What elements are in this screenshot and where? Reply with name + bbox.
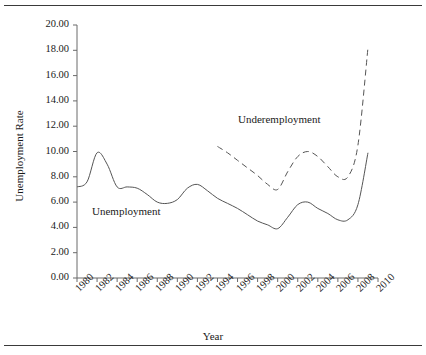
x-axis-title: Year (0, 330, 426, 342)
y-tick-label: 16.00 (25, 69, 69, 80)
y-tick-label: 0.00 (25, 271, 69, 282)
y-tick-label: 2.00 (25, 246, 69, 257)
figure-container: 0.002.004.006.008.0010.0012.0014.0016.00… (0, 0, 426, 355)
series-label-underemployment: Underemployment (238, 113, 320, 125)
y-tick-label: 6.00 (25, 195, 69, 206)
y-tick-label: 10.00 (25, 145, 69, 156)
y-axis-title: Unemployment Rate (13, 91, 25, 221)
y-tick-label: 8.00 (25, 170, 69, 181)
y-tick-label: 4.00 (25, 220, 69, 231)
y-tick-label: 20.00 (25, 18, 69, 29)
series-line-unemployment (77, 152, 368, 229)
y-tick-label: 12.00 (25, 119, 69, 130)
y-tick-label: 18.00 (25, 43, 69, 54)
series-label-unemployment: Unemployment (92, 205, 160, 217)
y-axis-ticks (73, 25, 77, 278)
y-tick-label: 14.00 (25, 94, 69, 105)
